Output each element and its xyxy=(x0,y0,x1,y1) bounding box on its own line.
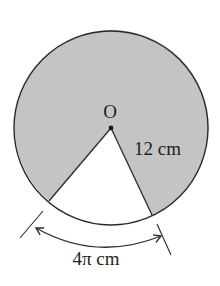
dimension-tick-right xyxy=(157,224,171,255)
center-point xyxy=(109,126,114,131)
center-label: O xyxy=(103,101,117,122)
dimension-tick-left xyxy=(20,211,43,238)
arc-length-label: 4π cm xyxy=(72,248,119,269)
circle-sector-diagram: O 12 cm 4π cm xyxy=(0,0,220,286)
arc-length-arrow xyxy=(36,228,161,247)
radius-label: 12 cm xyxy=(134,138,181,159)
